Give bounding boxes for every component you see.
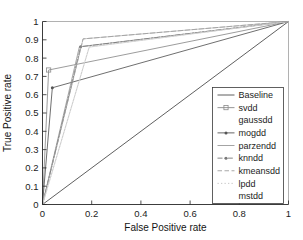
roc-chart-figure: 00.20.40.60.81 00.10.20.30.40.50.60.70.8…: [0, 0, 303, 240]
y-tick-label: 0.2: [25, 162, 38, 173]
legend-marker: [225, 157, 228, 160]
chart-canvas: 00.20.40.60.81 00.10.20.30.40.50.60.70.8…: [0, 0, 303, 240]
y-tick-label: 0: [33, 199, 38, 210]
y-tick-label: 0.9: [25, 34, 38, 45]
legend-item-gaussdd[interactable]: gaussdd: [239, 115, 273, 125]
legend-label: Baseline: [239, 90, 274, 100]
y-tick-label: 0.4: [25, 126, 38, 137]
y-tick-label: 0.7: [25, 71, 38, 82]
legend-label: parzendd: [239, 141, 277, 151]
x-tick-label: 0.4: [134, 208, 147, 219]
legend-marker: [225, 131, 228, 134]
y-tick-label: 0.8: [25, 53, 38, 64]
legend-label: kmeansdd: [239, 166, 281, 176]
x-tick-label: 0.2: [85, 208, 98, 219]
y-tick-label: 0.5: [25, 107, 38, 118]
legend-item-mstdd[interactable]: mstdd: [239, 191, 264, 201]
x-tick-label: 0.6: [183, 208, 196, 219]
legend: Baselinesvddgaussddmogddparzenddknnddkme…: [213, 88, 284, 204]
x-tick-label: 0: [40, 208, 45, 219]
legend-label: lpdd: [239, 179, 256, 189]
marker-mogdd: [51, 86, 54, 89]
x-tick-label: 1: [286, 208, 291, 219]
legend-label: knndd: [239, 153, 264, 163]
legend-label: svdd: [239, 103, 258, 113]
y-tick-label: 0.1: [25, 181, 38, 192]
y-axis-title: True Positive rate: [2, 74, 13, 152]
y-tick-label: 0.6: [25, 89, 38, 100]
legend-label: mstdd: [239, 191, 264, 201]
x-tick-label: 0.8: [233, 208, 246, 219]
legend-label: mogdd: [239, 128, 267, 138]
y-tick-label: 1: [33, 16, 38, 27]
legend-label: gaussdd: [239, 115, 273, 125]
y-tick-label: 0.3: [25, 144, 38, 155]
x-axis-title: False Positive rate: [124, 222, 207, 233]
